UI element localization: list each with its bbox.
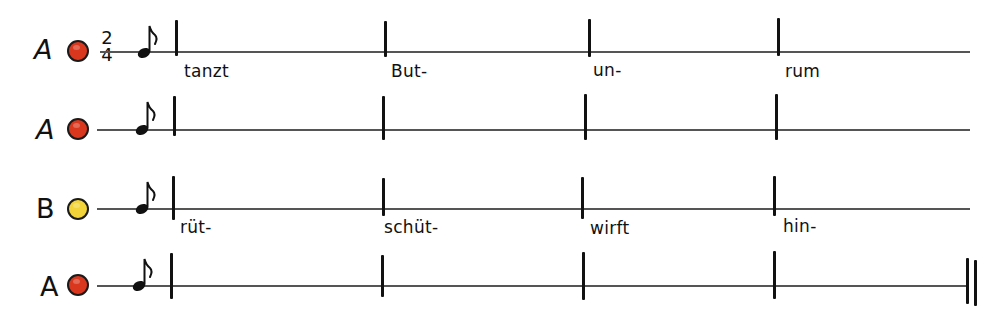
barline: [588, 19, 591, 57]
lyric: schüt-: [384, 219, 438, 236]
red-dot-icon: [67, 274, 89, 296]
barline: [775, 94, 778, 140]
lyric: un-: [593, 62, 622, 79]
eighth-note-icon: [134, 180, 158, 220]
rhythm-diagram: A 2 4 tanzt But- un- rum A: [0, 0, 1001, 316]
barline: [773, 251, 776, 299]
row-letter: A: [36, 116, 54, 143]
barline: [773, 176, 776, 216]
final-double-barline-left: [966, 258, 969, 304]
barline: [173, 96, 176, 136]
barline: [382, 178, 385, 216]
staff-line: [97, 208, 970, 210]
staff-line: [100, 51, 970, 53]
time-signature-denominator: 4: [99, 46, 115, 64]
barline: [582, 252, 585, 300]
red-dot-icon: [67, 118, 89, 140]
red-dot-icon: [67, 40, 89, 62]
eighth-note-icon: [131, 257, 155, 297]
barline: [172, 176, 175, 220]
barline: [175, 20, 178, 56]
barline: [581, 177, 584, 219]
final-double-barline-right: [974, 260, 977, 306]
staff-row-1: A 2 4 tanzt But- un- rum: [0, 16, 1001, 86]
barline: [381, 255, 384, 297]
barline: [170, 253, 173, 299]
barline: [777, 18, 780, 56]
lyric: tanzt: [184, 63, 229, 80]
lyric: rüt-: [180, 219, 212, 236]
staff-line: [97, 129, 970, 131]
barline: [382, 96, 385, 140]
staff-line: [97, 285, 967, 287]
barline: [384, 21, 387, 57]
lyric: wirft: [590, 220, 629, 237]
eighth-note-icon: [134, 100, 158, 140]
lyric: rum: [785, 63, 820, 80]
yellow-dot-icon: [67, 198, 89, 220]
lyric: hin-: [783, 218, 817, 235]
staff-row-3: B rüt- schüt- wirft hin-: [0, 173, 1001, 243]
row-letter: B: [36, 195, 55, 222]
barline: [584, 94, 587, 140]
time-signature: 2 4: [99, 29, 115, 64]
eighth-note-icon: [136, 24, 160, 64]
row-letter: A: [40, 273, 58, 300]
lyric: But-: [391, 63, 427, 80]
staff-row-4: A: [0, 250, 1001, 316]
row-letter: A: [34, 36, 52, 63]
staff-row-2: A: [0, 94, 1001, 164]
